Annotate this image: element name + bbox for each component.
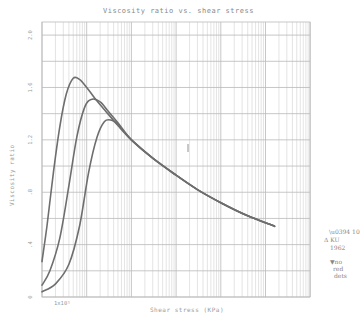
svg-text:red: red	[333, 265, 343, 272]
handwritten-notes: \u0394 10 Δ KU 1962 ▼no red dets	[324, 228, 360, 279]
chart-title: Viscosity ratio vs. shear stress	[103, 7, 254, 15]
svg-text:\u0394 10: \u0394 10	[329, 228, 360, 235]
svg-text:▼no: ▼no	[330, 258, 342, 265]
svg-text:dets: dets	[334, 272, 347, 279]
y-tick-label: 0	[27, 295, 33, 298]
y-axis-label: Viscosity ratio	[8, 144, 16, 206]
y-tick-labels: 0.4.81.21.62.0	[27, 30, 33, 299]
svg-text:1962: 1962	[330, 244, 345, 251]
y-tick-label: 1.6	[27, 83, 33, 93]
y-tick-label: .4	[27, 241, 33, 248]
x-axis-label: Shear stress (KPa)	[150, 306, 224, 313]
viscosity-chart: 0.4.81.21.62.0 Viscosity ratio vs. shear…	[0, 0, 360, 323]
y-tick-label: .8	[27, 189, 33, 196]
y-tick-label: 1.2	[27, 135, 33, 145]
svg-text:Δ KU: Δ KU	[324, 236, 340, 243]
grid	[42, 22, 310, 297]
x-tick-label: 1x10¹	[54, 300, 71, 306]
y-tick-label: 2.0	[27, 30, 33, 40]
